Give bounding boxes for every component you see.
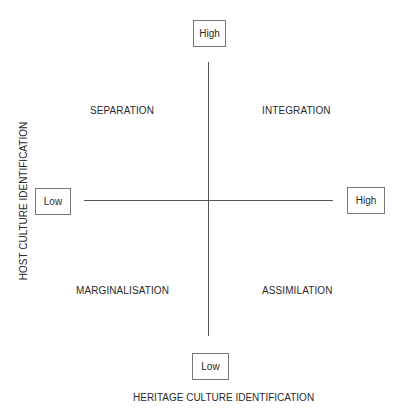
right-axis-high-box: High	[347, 187, 385, 214]
top-axis-high-box: High	[193, 20, 226, 47]
right-high-label: High	[356, 195, 377, 206]
bottom-axis-low-box: Low	[192, 353, 229, 380]
y-axis-title: HOST CULTURE IDENTIFICATION	[18, 122, 29, 280]
quadrant-assimilation: ASSIMILATION	[262, 285, 332, 296]
left-low-label: Low	[44, 196, 62, 207]
top-high-label: High	[199, 28, 220, 39]
quadrant-separation: SEPARATION	[90, 105, 154, 116]
bottom-low-label: Low	[201, 361, 219, 372]
horizontal-axis-line	[84, 200, 333, 201]
left-axis-low-box: Low	[35, 188, 71, 215]
quadrant-marginalisation: MARGINALISATION	[76, 285, 169, 296]
quadrant-integration: INTEGRATION	[262, 105, 331, 116]
x-axis-title: HERITAGE CULTURE IDENTIFICATION	[133, 392, 314, 403]
vertical-axis-line	[208, 62, 209, 336]
